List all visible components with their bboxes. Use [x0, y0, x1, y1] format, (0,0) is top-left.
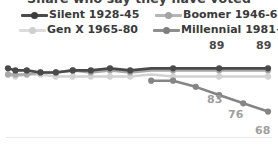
series-marker-2 — [265, 73, 271, 79]
legend-label-genx: Gen X 1965-80 — [47, 24, 138, 36]
line-marker-icon — [21, 9, 48, 21]
data-label-silent-89-right: 89 — [256, 39, 271, 52]
series-marker-0 — [170, 65, 176, 71]
series-marker-0 — [70, 67, 76, 73]
chart-series-lines — [0, 38, 278, 145]
series-marker-0 — [216, 65, 222, 71]
series-marker-0 — [127, 67, 133, 73]
data-label-silent-89-left: 89 — [209, 39, 224, 52]
data-label-millennial-83: 83 — [207, 93, 222, 106]
chart-legend: Silent 1928-45 Boomer 1946-64 Gen X 1965… — [0, 8, 278, 38]
page-title: Share who say they have voted — [27, 0, 251, 6]
series-marker-0 — [88, 67, 94, 73]
series-line-2 — [8, 75, 268, 77]
series-marker-3 — [170, 78, 176, 84]
series-marker-0 — [12, 67, 18, 73]
data-label-millennial-68: 68 — [255, 124, 270, 137]
chart-plot-area — [0, 38, 278, 145]
legend-item-boomer[interactable]: Boomer 1946-64 — [155, 8, 278, 22]
legend-label-boomer: Boomer 1946-64 — [183, 9, 278, 21]
series-marker-3 — [240, 100, 246, 106]
series-marker-0 — [53, 69, 59, 75]
series-marker-0 — [5, 65, 11, 71]
series-marker-0 — [37, 69, 43, 75]
chart-baseline-rule — [6, 137, 272, 138]
legend-item-millennial[interactable]: Millennial 1981+ — [153, 23, 278, 37]
series-marker-0 — [107, 65, 113, 71]
legend-label-millennial: Millennial 1981+ — [181, 24, 278, 36]
series-marker-3 — [193, 84, 199, 90]
line-marker-icon — [153, 24, 180, 36]
series-marker-0 — [265, 65, 271, 71]
legend-item-genx[interactable]: Gen X 1965-80 — [19, 23, 138, 37]
line-marker-icon — [19, 24, 46, 36]
line-marker-icon — [155, 9, 182, 21]
chart-figure: Share who say they have voted Silent 192… — [0, 0, 278, 145]
legend-item-silent[interactable]: Silent 1928-45 — [21, 8, 139, 22]
legend-label-silent: Silent 1928-45 — [49, 9, 139, 21]
data-label-millennial-76: 76 — [228, 108, 243, 121]
series-marker-2 — [216, 73, 222, 79]
chart-title-clipped: Share who say they have voted — [0, 0, 278, 7]
series-marker-0 — [24, 67, 30, 73]
series-marker-3 — [265, 108, 271, 114]
series-marker-3 — [148, 78, 154, 84]
series-marker-2 — [107, 73, 113, 79]
series-marker-2 — [70, 73, 76, 79]
series-marker-1 — [5, 71, 11, 77]
